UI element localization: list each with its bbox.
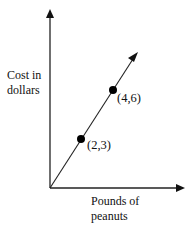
x-axis-label: Pounds of peanuts <box>91 194 139 224</box>
y-axis-label-line-2: dollars <box>7 83 41 98</box>
point-4-6 <box>109 86 117 94</box>
x-axis-label-line-2: peanuts <box>91 209 139 224</box>
point-label-2-3: (2,3) <box>87 138 111 152</box>
y-axis-arrow-icon <box>46 9 54 18</box>
line-arrow-icon <box>128 52 138 62</box>
point-label-4-6: (4,6) <box>117 91 141 105</box>
cost-line <box>50 59 133 188</box>
y-axis-label-line-1: Cost in <box>7 68 41 83</box>
x-axis-label-line-1: Pounds of <box>91 194 139 209</box>
point-2-3 <box>77 135 85 143</box>
x-axis-arrow-icon <box>176 184 185 192</box>
y-axis-label: Cost in dollars <box>7 68 41 98</box>
